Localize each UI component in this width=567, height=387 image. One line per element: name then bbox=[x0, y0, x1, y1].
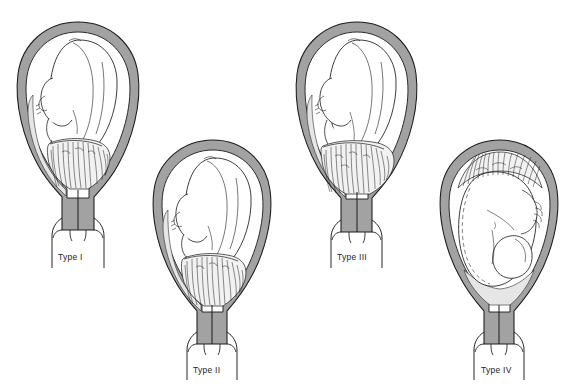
figure-label-type-3: Type III bbox=[337, 252, 367, 262]
fetal-head-type-4 bbox=[493, 236, 532, 279]
illustration-board: Type I Type II Type III Type IV bbox=[0, 0, 567, 387]
figure-label-type-2: Type II bbox=[193, 365, 220, 375]
placenta-types-illustration bbox=[0, 0, 567, 387]
figure-label-type-1: Type I bbox=[58, 252, 83, 262]
figure-label-type-4: Type IV bbox=[481, 365, 512, 375]
